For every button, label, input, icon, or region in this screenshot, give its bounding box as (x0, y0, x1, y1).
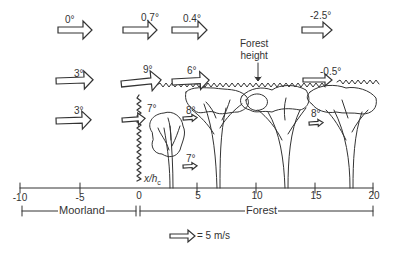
axis-label: x/hc (144, 174, 161, 186)
tick-label: 20 (368, 191, 379, 201)
angle-label-a8: -0.5° (320, 67, 341, 77)
zone-label-moorland: Moorland (58, 205, 106, 216)
wind-arrow-a12 (309, 119, 323, 127)
forest-canopy-line-right (337, 80, 379, 84)
wind-flow-diagram (0, 0, 398, 256)
angle-label-a1: 0° (65, 15, 75, 25)
tick-label: 5 (195, 191, 201, 201)
wind-arrow-a2 (123, 21, 157, 39)
angle-label-a5: 3° (74, 69, 84, 79)
wind-arrow-a6 (120, 70, 162, 94)
angle-label-a6: 9° (143, 65, 153, 75)
forest-height-label-line2: height (240, 50, 268, 62)
tick-label: 0 (136, 191, 142, 201)
angle-label-a10: 7° (147, 104, 157, 114)
angle-label-a2: 0.7° (141, 13, 159, 23)
legend-text: = 5 m/s (197, 231, 230, 241)
tree-2 (240, 86, 308, 189)
axis-label-main: x/h (144, 173, 157, 184)
angle-label-a12: 8° (311, 109, 321, 119)
tick-label: 10 (251, 191, 262, 201)
forest-height-pointer (255, 63, 261, 81)
angle-label-a3: 0.4° (183, 14, 201, 24)
forest-height-label: Forest height (240, 38, 268, 62)
tick-label: 15 (310, 191, 321, 201)
angle-label-a11: 8° (186, 106, 196, 116)
forest-height-label-line1: Forest (240, 38, 268, 50)
wind-arrow-a10 (122, 112, 146, 126)
zone-label-forest: Forest (245, 205, 278, 216)
angle-label-a7: 6° (187, 66, 197, 76)
forest-edge-line (137, 95, 141, 181)
tick-label: -10 (13, 193, 27, 203)
angle-label-a13: 7° (186, 154, 196, 164)
angle-label-a9: 3° (74, 106, 84, 116)
angle-label-a4: -2.5° (310, 11, 331, 21)
legend-arrow (170, 230, 195, 242)
wind-arrow-a1 (58, 21, 92, 39)
tree-1 (185, 88, 248, 188)
wind-arrow-a4 (302, 22, 332, 38)
tick-label: -5 (76, 193, 85, 203)
axis-label-sub: c (157, 179, 161, 186)
tree-3 (307, 85, 376, 188)
